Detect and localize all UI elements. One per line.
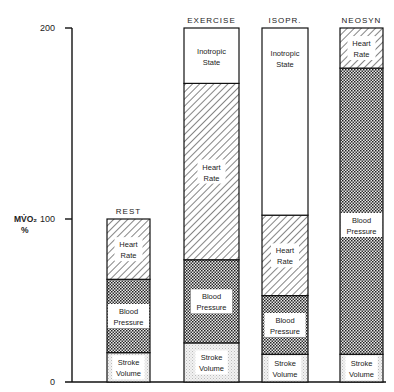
segment-label: Pressure xyxy=(113,318,143,327)
segment-label: Stroke xyxy=(274,359,296,368)
bar-neosyn: StrokeVolumeBloodPressureHeartRateNEOSYN xyxy=(340,16,383,382)
y-tick-label: 0 xyxy=(50,377,55,387)
segment-label: Heart xyxy=(276,246,295,255)
category-label: ISOPR. xyxy=(268,16,301,25)
segment-label: Pressure xyxy=(196,303,226,312)
stacked-bar-chart: 0100200 StrokeVolumeBloodPressureHeartRa… xyxy=(0,0,394,392)
segment-label: Rate xyxy=(354,50,370,59)
y-tick-label: 100 xyxy=(40,214,55,224)
segment-label: Rate xyxy=(121,251,137,260)
category-label: REST xyxy=(116,207,141,216)
segment-label: Blood xyxy=(119,307,138,316)
category-label: EXERCISE xyxy=(187,16,235,25)
segment-label: State xyxy=(203,58,221,67)
segment-label: Heart xyxy=(202,163,221,172)
segment-label: Rate xyxy=(204,174,220,183)
segment-label: Stroke xyxy=(201,353,223,362)
segment-label: Heart xyxy=(119,240,138,249)
segment-label: Rate xyxy=(277,257,293,266)
segment-label: Volume xyxy=(199,364,224,373)
segment-label: Volume xyxy=(349,370,374,379)
bars: StrokeVolumeBloodPressureHeartRateRESTSt… xyxy=(107,16,383,382)
segment-label: Blood xyxy=(275,316,294,325)
segment-label: Heart xyxy=(352,39,371,48)
segment-label: Stroke xyxy=(351,359,373,368)
segment-label: Blood xyxy=(202,292,221,301)
bar-rest: StrokeVolumeBloodPressureHeartRateREST xyxy=(107,207,150,382)
segment-label: Blood xyxy=(352,216,371,225)
category-label: NEOSYN xyxy=(342,16,382,25)
segment-label: Pressure xyxy=(270,327,300,336)
bar-segment xyxy=(340,68,383,354)
segment-label: Inotropic xyxy=(271,49,300,58)
y-tick-label: 200 xyxy=(40,23,55,33)
bar-exercise: StrokeVolumeBloodPressureHeartRateInotro… xyxy=(184,16,239,382)
bar-isopr: StrokeVolumeBloodPressureHeartRateInotro… xyxy=(262,16,308,382)
segment-label: Volume xyxy=(116,369,141,378)
segment-label: State xyxy=(276,60,294,69)
y-axis-unit: % xyxy=(21,225,29,235)
chart-canvas: 0100200 StrokeVolumeBloodPressureHeartRa… xyxy=(0,0,394,392)
segment-label: Stroke xyxy=(118,358,140,367)
segment-label: Inotropic xyxy=(197,47,226,56)
segment-label: Pressure xyxy=(346,227,376,236)
y-axis-title: MV̇O₂ xyxy=(14,214,37,224)
segment-label: Volume xyxy=(272,370,297,379)
